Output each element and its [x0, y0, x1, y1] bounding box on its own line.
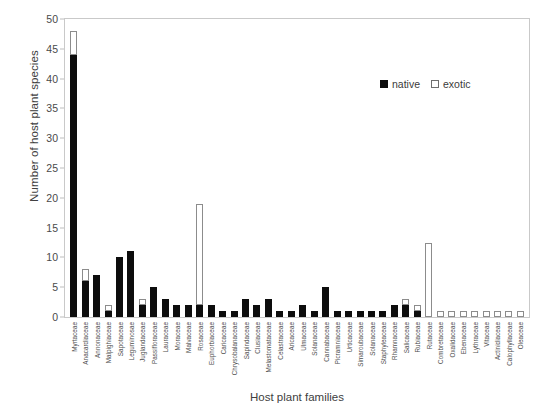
bar-stack	[368, 311, 375, 317]
x-axis-tick-label: Moraceae	[173, 322, 180, 350]
bar-column	[400, 19, 411, 317]
x-label-column: Moraceae	[171, 320, 182, 390]
bar-segment-native	[276, 311, 283, 317]
bar-segment-native	[334, 311, 341, 317]
bar-stack	[173, 305, 180, 317]
y-axis-tick-label: 10	[0, 251, 58, 263]
bar-column	[160, 19, 171, 317]
bar-segment-native	[219, 311, 226, 317]
bar-stack	[219, 311, 226, 317]
x-label-column: Solanaceae	[309, 320, 320, 390]
bar-stack	[116, 257, 123, 317]
x-label-column: Solanaceae	[366, 320, 377, 390]
bar-stack	[93, 275, 100, 317]
x-label-column: Picramniaceae	[331, 320, 342, 390]
bar-stack	[150, 287, 157, 317]
y-axis-tick-label: 20	[0, 192, 58, 204]
bar-segment-native	[379, 311, 386, 317]
bar-column	[79, 19, 90, 317]
x-label-column: Chrysobalanaceae	[228, 320, 239, 390]
x-label-column: Passifloraceae	[148, 320, 159, 390]
x-axis-tick-label: Rutaceae	[425, 322, 432, 349]
x-axis-tick-label: Solanaceae	[311, 322, 318, 356]
x-axis-tick-label: Aricaceae	[288, 322, 295, 350]
x-label-column: Rubiaceae	[412, 320, 423, 390]
bar-segment-exotic	[505, 311, 512, 317]
bar-column	[125, 19, 136, 317]
x-label-column: Cannabaceae	[320, 320, 331, 390]
bar-stack	[334, 311, 341, 317]
x-label-column: Rosaceae	[194, 320, 205, 390]
bar-stack	[276, 311, 283, 317]
x-axis-tick-label: Solanaceae	[368, 322, 375, 356]
bar-stack	[82, 269, 89, 317]
bar-stack	[139, 299, 146, 317]
x-axis-tick-label: Combretaceae	[437, 322, 444, 364]
bar-segment-exotic	[483, 311, 490, 317]
y-axis-tick-label: 30	[0, 132, 58, 144]
x-label-column: Lauraceae	[160, 320, 171, 390]
bar-stack	[448, 311, 455, 317]
bar-stack	[70, 31, 77, 317]
x-label-column: Actinidiaceae	[492, 320, 503, 390]
x-axis-tick-label: Melastomataceae	[265, 322, 272, 372]
bar-segment-native	[116, 257, 123, 317]
x-label-column: Sapotaceae	[114, 320, 125, 390]
bar-segment-native	[402, 305, 409, 317]
x-axis-tick-label: Leguminosae	[127, 322, 134, 360]
bar-stack	[242, 299, 249, 317]
bar-segment-native	[265, 299, 272, 317]
x-axis-tick-label: Malvaceae	[185, 322, 192, 353]
x-label-column: Rutaceae	[423, 320, 434, 390]
bar-column	[297, 19, 308, 317]
x-axis-tick-label: Calophyllaceae	[505, 322, 512, 366]
x-label-column: Myrtaceae	[68, 320, 79, 390]
y-axis-tick-label: 0	[0, 311, 58, 323]
x-axis-tick-label: Picramniaceae	[334, 322, 341, 364]
y-axis-tick-label: 15	[0, 222, 58, 234]
bar-column	[343, 19, 354, 317]
bar-column	[480, 19, 491, 317]
bar-segment-native	[105, 311, 112, 317]
x-label-column: Urticaceae	[343, 320, 354, 390]
bar-segment-exotic	[196, 204, 203, 305]
bar-segment-exotic	[437, 311, 444, 317]
x-axis-tick-label: Caricaceae	[219, 322, 226, 354]
x-axis-tick-label: Ulmaceae	[299, 322, 306, 351]
bar-segment-native	[208, 305, 215, 317]
bar-column	[309, 19, 320, 317]
x-label-column: Ebenaceae	[457, 320, 468, 390]
y-axis-tick-label: 45	[0, 43, 58, 55]
bar-segment-native	[299, 305, 306, 317]
bar-stack	[391, 305, 398, 317]
x-axis-tick-label: Salicaceae	[402, 322, 409, 353]
bar-stack	[299, 305, 306, 317]
bar-segment-exotic	[425, 243, 432, 318]
bar-segment-native	[93, 275, 100, 317]
x-axis-tick-label: Staphyleaceae	[379, 322, 386, 364]
bar-segment-native	[196, 305, 203, 317]
x-label-column: Leguminosae	[125, 320, 136, 390]
x-label-column: Melastomataceae	[263, 320, 274, 390]
bar-column	[286, 19, 297, 317]
bar-column	[423, 19, 434, 317]
bar-stack	[253, 305, 260, 317]
x-label-column: Staphyleaceae	[377, 320, 388, 390]
bar-segment-native	[368, 311, 375, 317]
bar-segment-native	[242, 299, 249, 317]
y-axis-tick-label: 40	[0, 73, 58, 85]
x-axis-tick-label: Sapindaceae	[242, 322, 249, 359]
bar-column	[492, 19, 503, 317]
bar-stack	[425, 243, 432, 318]
y-axis-tick-label: 35	[0, 102, 58, 114]
x-axis-tick-label: Urticaceae	[345, 322, 352, 353]
x-label-column: Calophyllaceae	[503, 320, 514, 390]
bar-segment-native	[139, 305, 146, 317]
bar-column	[194, 19, 205, 317]
x-label-column: Clusiaceae	[251, 320, 262, 390]
bar-column	[435, 19, 446, 317]
bar-segment-native	[311, 311, 318, 317]
x-axis-tick-label: Oxalidaceae	[448, 322, 455, 358]
bar-segment-exotic	[471, 311, 478, 317]
bar-stack	[208, 305, 215, 317]
